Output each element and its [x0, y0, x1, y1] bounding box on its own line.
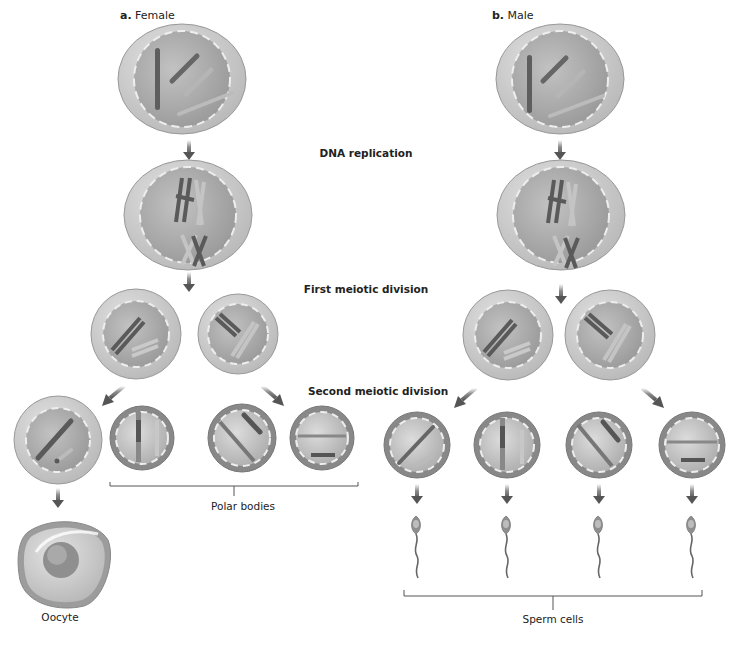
sperm-cells-bracket — [404, 590, 702, 610]
female-egg-precursor-cell — [14, 396, 102, 484]
polar-body-1 — [110, 406, 174, 470]
spermatid-cell-2 — [474, 412, 540, 478]
oocyte-cell — [18, 522, 110, 608]
male-first-division-cell-2 — [565, 290, 655, 380]
sperm-cell-1 — [412, 516, 421, 578]
arrow-down-icon — [183, 272, 195, 292]
male-replicated-cell — [497, 160, 625, 270]
female-replicated-cell — [124, 160, 252, 270]
sperm-cell-3 — [594, 516, 603, 578]
arrow-down-icon — [411, 484, 423, 504]
female-parent-cell — [118, 24, 246, 134]
spermatid-cell-1 — [384, 412, 450, 478]
spermatid-cell-4 — [659, 412, 725, 478]
arrow-down-icon — [555, 284, 567, 304]
female-first-division-cell-1 — [91, 289, 181, 379]
polar-body-3 — [290, 406, 354, 470]
arrow-down-right-icon — [262, 386, 284, 406]
meiosis-diagram — [0, 0, 746, 645]
arrow-down-icon — [52, 488, 64, 508]
arrow-down-icon — [593, 484, 605, 504]
polar-bodies-bracket — [110, 482, 358, 496]
polar-body-2 — [208, 404, 276, 472]
female-first-division-cell-2 — [198, 294, 278, 374]
sperm-cell-4 — [687, 516, 696, 578]
arrow-down-left-icon — [454, 388, 476, 408]
arrow-down-right-icon — [642, 388, 664, 408]
arrow-down-icon — [554, 140, 566, 160]
sperm-cell-2 — [502, 516, 511, 578]
arrow-down-icon — [501, 484, 513, 504]
male-parent-cell — [496, 24, 624, 134]
arrow-down-icon — [183, 140, 195, 160]
arrow-down-icon — [686, 484, 698, 504]
arrow-down-left-icon — [102, 386, 124, 406]
male-first-division-cell-1 — [463, 290, 553, 380]
spermatid-cell-3 — [566, 412, 632, 478]
